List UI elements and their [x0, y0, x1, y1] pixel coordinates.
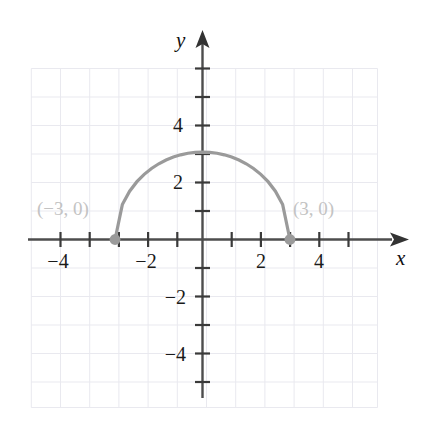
x-tick-label-2: 2: [256, 251, 266, 271]
x-axis-label: x: [396, 248, 405, 269]
y-tick-label-neg2: −2: [165, 287, 186, 307]
x-axis-arrow: [390, 233, 409, 247]
axes: [28, 42, 392, 398]
y-tick-label-neg4: −4: [165, 344, 186, 364]
y-tick-label-4: 4: [173, 115, 183, 135]
point-label-right: (3, 0): [293, 199, 334, 218]
y-tick-label-2: 2: [173, 172, 183, 192]
y-axis-label: y: [176, 30, 185, 51]
x-tick-label-4: 4: [314, 251, 324, 271]
gridlines: [31, 69, 377, 408]
point-label-left: (−3, 0): [37, 199, 89, 218]
endpoint-dot-right: [285, 234, 296, 245]
graph-figure: −4 −2 2 4 4 2 −2 −4 y x (−3, 0) (3, 0): [0, 0, 423, 431]
endpoint-dot-left: [110, 234, 121, 245]
x-tick-label-neg4: −4: [47, 251, 68, 271]
x-tick-label-neg2: −2: [135, 251, 156, 271]
